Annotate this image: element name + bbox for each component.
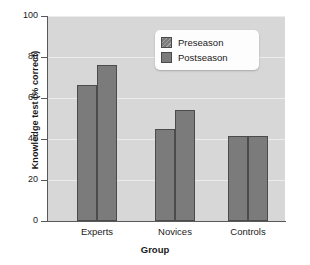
y-axis-tick-label: 60: [0, 93, 38, 102]
x-axis-label-novices: Novices: [135, 226, 215, 237]
bar-chart-figure: Knowledge test (% correct) 020406080100 …: [0, 0, 310, 265]
y-axis-tick: [41, 57, 47, 58]
bar-controls-postseason: [248, 136, 268, 221]
bar-novices-postseason: [175, 110, 195, 221]
y-axis-tick-label: 80: [0, 52, 38, 61]
legend-item-preseason: Preseason: [161, 35, 252, 50]
legend-swatch-preseason: [161, 37, 172, 48]
bar-controls-preseason: [228, 136, 248, 221]
bar-experts-preseason: [77, 85, 97, 221]
y-axis-tick: [41, 139, 47, 140]
legend-label-preseason: Preseason: [178, 37, 223, 48]
legend-item-postseason: Postseason: [161, 50, 252, 65]
x-axis-label-controls: Controls: [208, 226, 288, 237]
y-axis-tick: [41, 16, 47, 17]
gridline: [48, 16, 285, 17]
y-axis-tick: [41, 221, 47, 222]
bar-experts-postseason: [97, 65, 117, 221]
x-axis-title: Group: [0, 244, 310, 255]
chart-legend: Preseason Postseason: [155, 30, 259, 70]
bar-novices-preseason: [155, 129, 175, 221]
y-axis-tick: [41, 98, 47, 99]
y-axis-tick-label: 0: [0, 216, 38, 225]
legend-label-postseason: Postseason: [178, 52, 228, 63]
y-axis-line: [47, 16, 48, 222]
y-axis-tick-label: 20: [0, 175, 38, 184]
legend-swatch-postseason: [161, 52, 172, 63]
y-axis-tick-label: 100: [0, 11, 38, 20]
y-axis-tick: [41, 180, 47, 181]
x-axis-line: [47, 221, 286, 222]
x-axis-label-experts: Experts: [57, 226, 137, 237]
y-axis-tick-label: 40: [0, 134, 38, 143]
